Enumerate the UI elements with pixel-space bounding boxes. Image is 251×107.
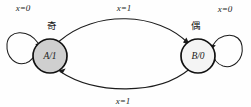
transition-a-to-b-label: x=1 <box>116 3 132 13</box>
transition-b-to-a <box>59 69 189 89</box>
state-a-annotation: 奇 <box>47 20 57 31</box>
state-b-annotation: 偶 <box>191 20 201 31</box>
state-node-a[interactable]: A/1 <box>33 39 67 73</box>
state-node-b[interactable]: B/0 <box>181 39 215 73</box>
fsm-canvas: A/1 B/0 奇 偶 x=0 x=1 x=1 x=0 <box>0 0 251 107</box>
self-loop-b-path <box>212 35 243 66</box>
state-b-label: B/0 <box>191 51 204 61</box>
state-transition-diagram: A/1 B/0 奇 偶 x=0 x=1 x=1 x=0 <box>0 0 251 107</box>
state-a-label: A/1 <box>42 51 56 61</box>
transition-a-to-b <box>60 19 190 45</box>
arc-b-to-a-path <box>60 70 189 89</box>
transition-b-to-a-label: x=1 <box>115 96 131 106</box>
transition-a-to-a-label: x=0 <box>15 3 31 13</box>
transition-b-to-b-label: x=0 <box>217 4 233 14</box>
arc-a-to-b-path <box>60 19 189 44</box>
